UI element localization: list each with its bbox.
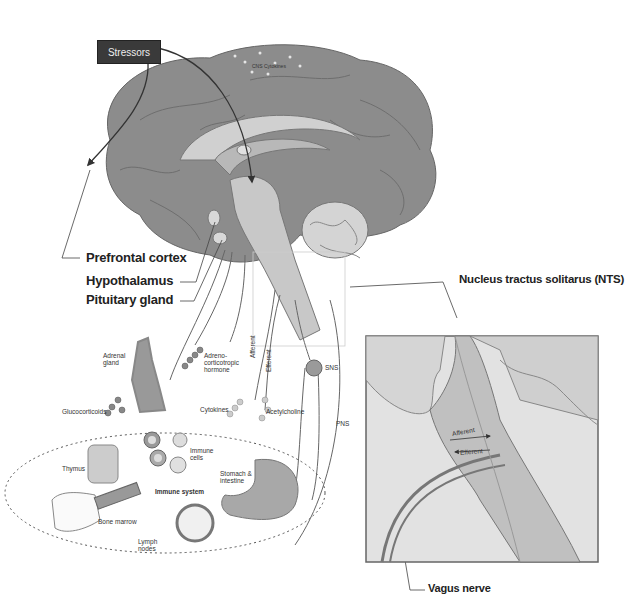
nts-label: Nucleus tractus solitarus (NTS): [459, 273, 624, 285]
sns-label: SNS: [325, 364, 338, 371]
lymph-node: [177, 505, 213, 541]
bone: [52, 493, 100, 532]
sns-ganglion: [306, 360, 322, 376]
adrenal-gland: [132, 338, 165, 412]
bone-marrow-label: Bone marrow: [98, 518, 137, 525]
glucocorticoids-label: Glucocorticoids: [62, 408, 106, 415]
efferent-label: Efferent: [265, 349, 272, 372]
stomach: [222, 459, 298, 519]
thymus-label: Thymus: [62, 465, 85, 472]
afferent-label: Afferent: [249, 335, 256, 358]
immune-system-label: Immune system: [155, 488, 204, 495]
vagus-nerve-label: Vagus nerve: [428, 582, 491, 594]
immune-cells-label: Immune cells: [190, 447, 214, 461]
bone-marrow: [94, 482, 140, 509]
pns-label: PNS: [336, 420, 349, 427]
hypothalamus-label: Hypothalamus: [86, 273, 173, 288]
cytokines-label: Cytokines: [200, 406, 229, 413]
prefrontal-cortex-label: Prefrontal cortex: [86, 250, 187, 265]
acetylcholine-label: Acetylcholine: [266, 408, 304, 415]
cns-cytokines-label: CNS Cytokines: [252, 63, 286, 69]
stomach-intestine-label: Stomach & intestine: [220, 470, 256, 484]
lymph-nodes-label: Lymph nodes: [138, 538, 162, 552]
stressors-box: Stressors: [97, 40, 161, 64]
pituitary-gland-label: Pituitary gland: [86, 292, 173, 307]
acth-label: Adreno-corticotropic hormone: [204, 352, 244, 373]
adrenal-gland-label: Adrenal gland: [103, 352, 129, 366]
immune-cells: [144, 432, 187, 473]
thymus: [88, 445, 118, 483]
cerebellum: [302, 202, 368, 258]
